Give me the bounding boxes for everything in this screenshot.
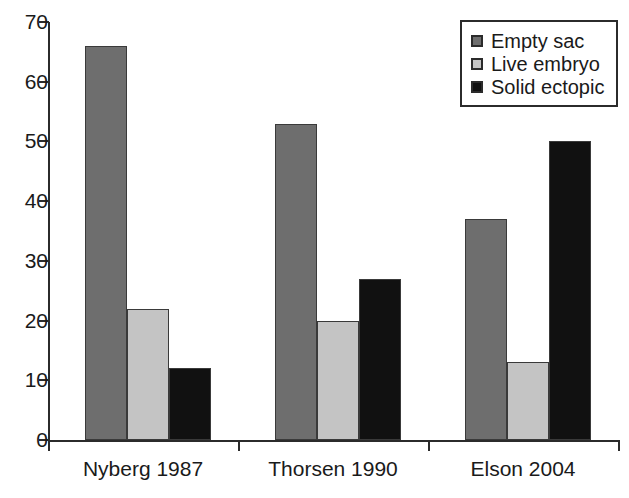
- y-tick-label: 10: [8, 369, 48, 390]
- legend-label-solid-ectopic: Solid ectopic: [491, 77, 604, 97]
- x-tick-mark: [48, 440, 50, 451]
- legend-swatch-solid-ectopic: [471, 81, 483, 93]
- legend-label-empty-sac: Empty sac: [491, 31, 584, 51]
- y-tick-label: 0: [8, 429, 48, 450]
- x-category-label: Thorsen 1990: [238, 458, 428, 479]
- y-axis-ticks: 010203040506070: [0, 0, 48, 498]
- bar[interactable]: [465, 219, 507, 440]
- bar[interactable]: [127, 309, 169, 440]
- x-tick-mark: [618, 440, 620, 451]
- x-tick-mark: [428, 440, 430, 451]
- y-tick-label: 20: [8, 310, 48, 331]
- y-tick-label: 30: [8, 250, 48, 271]
- x-axis-line: [48, 440, 618, 442]
- legend-swatch-live-embryo: [471, 58, 483, 70]
- bar-group: [85, 22, 211, 440]
- legend-item-solid-ectopic[interactable]: Solid ectopic: [471, 75, 608, 98]
- legend-item-empty-sac[interactable]: Empty sac: [471, 29, 608, 52]
- legend-item-live-embryo[interactable]: Live embryo: [471, 52, 608, 75]
- y-tick-label: 70: [8, 11, 48, 32]
- legend: Empty sac Live embryo Solid ectopic: [460, 20, 618, 107]
- bar[interactable]: [275, 124, 317, 440]
- x-category-label: Nyberg 1987: [48, 458, 238, 479]
- bar-chart: 010203040506070 Nyberg 1987Thorsen 1990E…: [0, 0, 629, 498]
- x-category-label: Elson 2004: [428, 458, 618, 479]
- bar[interactable]: [507, 362, 549, 440]
- legend-swatch-empty-sac: [471, 35, 483, 47]
- legend-label-live-embryo: Live embryo: [491, 54, 600, 74]
- bar[interactable]: [549, 141, 591, 440]
- bar-group: [275, 22, 401, 440]
- bar[interactable]: [169, 368, 211, 440]
- bar[interactable]: [85, 46, 127, 440]
- x-tick-mark: [238, 440, 240, 451]
- y-tick-label: 50: [8, 130, 48, 151]
- y-tick-label: 60: [8, 71, 48, 92]
- y-tick-label: 40: [8, 190, 48, 211]
- bar[interactable]: [359, 279, 401, 440]
- bar[interactable]: [317, 321, 359, 440]
